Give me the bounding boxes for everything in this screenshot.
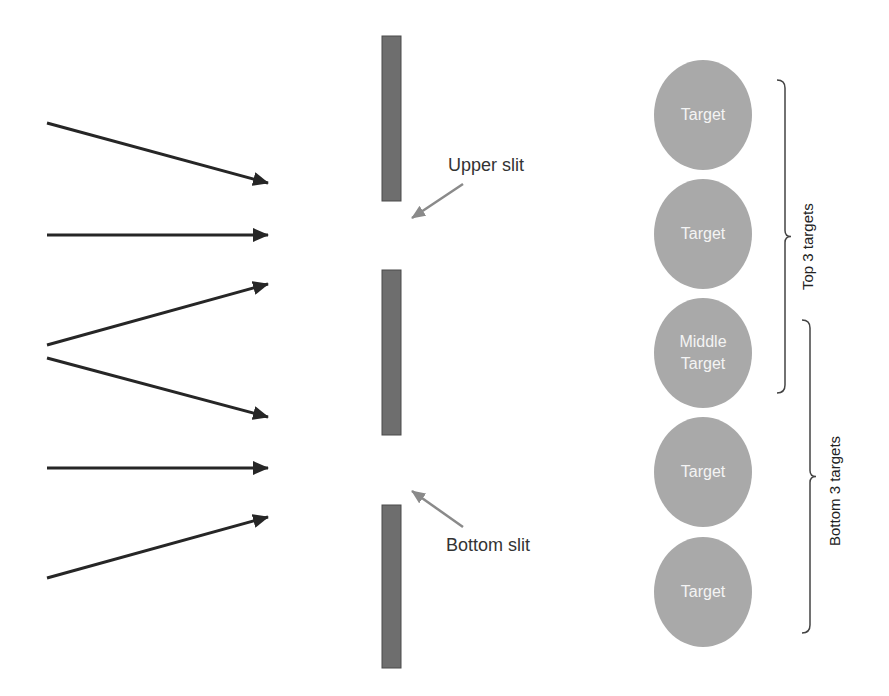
incoming-rays — [47, 123, 268, 578]
bottom-slit-pointer-arrow — [412, 491, 463, 527]
target-label-line2: Target — [681, 353, 725, 375]
top-3-targets-label: Top 3 targets — [799, 203, 816, 290]
target-label: Target — [681, 104, 725, 126]
target-label: Target — [681, 581, 725, 603]
bottom-slit-label: Bottom slit — [446, 535, 530, 556]
double-slit-diagram — [0, 0, 889, 696]
target-1: Target — [654, 60, 752, 170]
ray-arrow-4 — [47, 358, 268, 417]
ray-arrow-3 — [47, 284, 268, 345]
ray-arrow-6 — [47, 517, 268, 578]
upper-slit-pointer-arrow — [412, 184, 463, 218]
bottom-group-brace-icon — [802, 320, 816, 633]
barrier-1 — [382, 36, 401, 201]
target-2: Target — [654, 179, 752, 289]
barriers — [382, 36, 401, 668]
target-4: Target — [654, 417, 752, 527]
barrier-2 — [382, 270, 401, 435]
top-group-brace-icon — [777, 80, 791, 393]
target-label: Target — [681, 461, 725, 483]
target-label: Target — [681, 223, 725, 245]
group-braces — [777, 80, 816, 633]
ray-arrow-1 — [47, 123, 268, 183]
barrier-3 — [382, 505, 401, 668]
target-label-line1: Middle — [679, 331, 726, 353]
slit-pointers — [412, 184, 463, 527]
middle-target: Middle Target — [654, 298, 752, 408]
bottom-3-targets-label: Bottom 3 targets — [826, 436, 843, 546]
target-5: Target — [654, 537, 752, 647]
upper-slit-label: Upper slit — [448, 155, 524, 176]
